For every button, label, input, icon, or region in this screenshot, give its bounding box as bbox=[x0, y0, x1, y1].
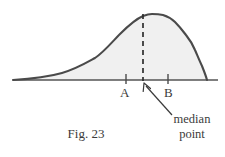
figure-caption: Fig. 23 bbox=[44, 127, 128, 140]
median-point-annotation: median point bbox=[160, 112, 224, 142]
median-annotation-line-2: point bbox=[160, 127, 224, 142]
figure-container: A B median point Fig. 23 bbox=[0, 0, 225, 157]
axis-label-b: B bbox=[164, 86, 173, 99]
median-annotation-line-1: median bbox=[160, 112, 224, 127]
axis-label-a: A bbox=[120, 86, 129, 99]
